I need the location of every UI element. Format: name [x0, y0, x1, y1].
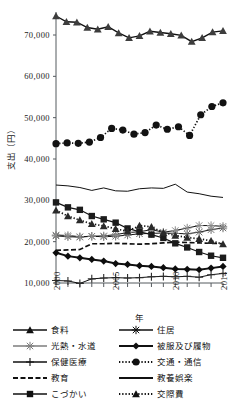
- legend-label: 食料: [51, 326, 69, 335]
- legend-column-left: 食料光熱・水道保健医療教育こづかい: [12, 322, 116, 402]
- legend-swatch: [118, 323, 154, 337]
- svg-text:40,000: 40,000: [24, 154, 50, 164]
- legend-item-left-3[interactable]: 教育: [12, 370, 116, 386]
- legend-sample-icon: [118, 371, 154, 385]
- legend-swatch: [118, 371, 154, 385]
- legend-swatch: [12, 371, 48, 385]
- legend-column-right: 住居被服及び履物交通・通信教養娯楽交際費: [118, 322, 229, 402]
- legend-item-right-0[interactable]: 住居: [118, 322, 229, 338]
- legend-sample-icon: [12, 387, 48, 401]
- legend-label: 保健医療: [51, 358, 87, 367]
- legend-item-right-3[interactable]: 教養娯楽: [118, 370, 229, 386]
- legend-label: 光熱・水道: [51, 342, 96, 351]
- legend-sample-icon: [118, 339, 154, 353]
- legend-sample-icon: [12, 371, 48, 385]
- legend-sample-icon: [12, 323, 48, 337]
- legend-item-right-1[interactable]: 被服及び履物: [118, 338, 229, 354]
- svg-text:20,000: 20,000: [24, 237, 50, 247]
- series-5: [52, 99, 226, 147]
- legend-swatch: [118, 355, 154, 369]
- legend-item-left-0[interactable]: 食料: [12, 322, 116, 338]
- axes: [53, 12, 223, 287]
- legend-item-left-4[interactable]: こづかい: [12, 386, 116, 402]
- svg-text:70,000: 70,000: [24, 30, 50, 40]
- svg-text:2005: 2005: [111, 271, 121, 290]
- legend-label: こづかい: [51, 390, 87, 399]
- legend-label: 被服及び履物: [157, 342, 211, 351]
- legend-swatch: [12, 387, 48, 401]
- legend-item-right-2[interactable]: 交通・通信: [118, 354, 229, 370]
- legend-swatch: [12, 323, 48, 337]
- svg-text:支出（円）: 支出（円）: [6, 125, 16, 170]
- legend-swatch: [118, 387, 154, 401]
- chart-legend: 食料光熱・水道保健医療教育こづかい 住居被服及び履物交通・通信教養娯楽交際費: [0, 322, 229, 406]
- series-8: [53, 199, 226, 261]
- legend-sample-icon: [12, 339, 48, 353]
- legend-label: 交通・通信: [157, 358, 202, 367]
- series-7: [56, 184, 223, 197]
- legend-sample-icon: [118, 387, 154, 401]
- svg-text:30,000: 30,000: [24, 195, 50, 205]
- legend-label: 住居: [157, 326, 175, 335]
- svg-text:2000: 2000: [52, 271, 62, 290]
- legend-sample-icon: [12, 355, 48, 369]
- data-series: [52, 12, 227, 287]
- legend-item-left-2[interactable]: 保健医療: [12, 354, 116, 370]
- svg-text:50,000: 50,000: [24, 113, 50, 123]
- legend-label: 教育: [51, 374, 69, 383]
- legend-label: 交際費: [157, 390, 184, 399]
- expenditure-line-chart: 10,00020,00030,00040,00050,00060,00070,0…: [0, 0, 229, 406]
- legend-item-right-4[interactable]: 交際費: [118, 386, 229, 402]
- series-0: [52, 12, 227, 45]
- legend-swatch: [12, 355, 48, 369]
- legend-label: 教養娯楽: [157, 374, 193, 383]
- svg-text:2010: 2010: [171, 271, 181, 290]
- legend-sample-icon: [118, 355, 154, 369]
- legend-swatch: [118, 339, 154, 353]
- legend-item-left-1[interactable]: 光熱・水道: [12, 338, 116, 354]
- legend-swatch: [12, 339, 48, 353]
- axis-labels: 10,00020,00030,00040,00050,00060,00070,0…: [6, 30, 229, 323]
- svg-text:10,000: 10,000: [24, 278, 50, 288]
- legend-sample-icon: [118, 323, 154, 337]
- svg-text:60,000: 60,000: [24, 71, 50, 81]
- svg-text:2014: 2014: [219, 271, 229, 290]
